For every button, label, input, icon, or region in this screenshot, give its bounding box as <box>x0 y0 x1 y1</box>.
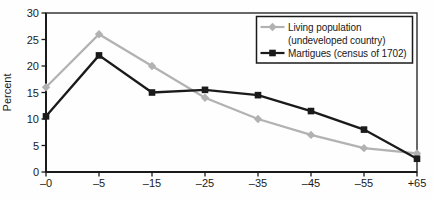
data-point-marker <box>307 131 315 139</box>
legend-sample-marker <box>269 50 276 57</box>
data-point-marker <box>360 144 368 152</box>
age-distribution-figure: 051015202530 –0–5–15–25–35–45–55+65 Perc… <box>0 0 433 199</box>
x-tick-label: –55 <box>355 177 373 189</box>
y-axis-title: Percent <box>1 74 13 112</box>
data-point-marker <box>96 52 103 59</box>
data-point-marker <box>361 126 368 133</box>
x-tick-label: –25 <box>196 177 214 189</box>
y-tick-label: 15 <box>27 87 39 99</box>
x-tick-label: –0 <box>40 177 52 189</box>
legend: Living population (undeveloped country) … <box>257 17 413 64</box>
series-line <box>46 55 417 158</box>
x-tick-label: –15 <box>143 177 161 189</box>
x-tick-label: +65 <box>408 177 427 189</box>
data-point-marker <box>414 155 421 162</box>
data-point-marker <box>202 87 209 94</box>
chart-canvas: 051015202530 –0–5–15–25–35–45–55+65 Perc… <box>0 0 433 199</box>
y-tick-label: 5 <box>33 140 39 152</box>
x-axis-ticks: –0–5–15–25–35–45–55+65 <box>40 172 426 189</box>
legend-label-martigues: Martigues (census of 1702) <box>288 48 407 59</box>
x-tick-label: –35 <box>249 177 267 189</box>
y-tick-label: 0 <box>33 166 39 178</box>
data-point-marker <box>254 115 262 123</box>
data-point-marker <box>255 92 262 99</box>
x-tick-label: –45 <box>302 177 320 189</box>
legend-label-living-population-line2: (undeveloped country) <box>288 35 385 46</box>
y-axis-ticks: 051015202530 <box>27 7 46 178</box>
y-tick-label: 25 <box>27 34 39 46</box>
y-tick-label: 20 <box>27 60 39 72</box>
y-tick-label: 30 <box>27 7 39 19</box>
data-point-marker <box>308 108 315 115</box>
data-point-marker <box>43 113 50 120</box>
x-tick-label: –5 <box>93 177 105 189</box>
legend-label-living-population-line1: Living population <box>288 22 361 33</box>
y-tick-label: 10 <box>27 113 39 125</box>
data-point-marker <box>149 89 156 96</box>
